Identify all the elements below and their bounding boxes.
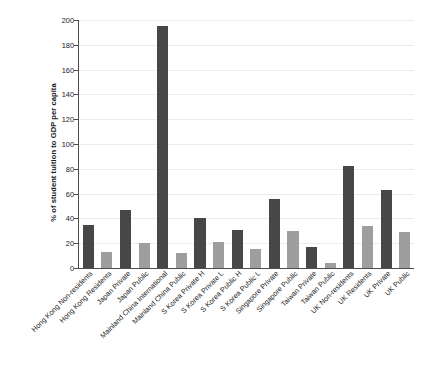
y-axis-tick-mark xyxy=(74,45,78,46)
y-axis-tick-mark xyxy=(74,218,78,219)
y-axis-tick-label: 100 xyxy=(34,140,74,149)
bar xyxy=(83,225,94,268)
y-axis-tick-label: 20 xyxy=(34,239,74,248)
bar xyxy=(269,199,280,268)
bar xyxy=(101,252,112,268)
bar xyxy=(194,218,205,268)
y-axis-tick-mark xyxy=(74,243,78,244)
bars-group xyxy=(79,20,414,268)
bar xyxy=(381,190,392,268)
bar xyxy=(176,253,187,268)
y-axis-tick-mark xyxy=(74,20,78,21)
bar xyxy=(306,247,317,268)
bar xyxy=(120,210,131,268)
bar xyxy=(362,226,373,268)
bar xyxy=(213,242,224,268)
plot-area xyxy=(78,20,414,268)
y-axis-tick-mark xyxy=(74,194,78,195)
y-axis-tick-label: 180 xyxy=(34,40,74,49)
bar xyxy=(399,232,410,268)
y-axis-tick-mark xyxy=(74,70,78,71)
bar xyxy=(325,263,336,268)
y-axis-tick-mark xyxy=(74,169,78,170)
bar xyxy=(232,230,243,268)
y-axis-tick-label: 60 xyxy=(34,189,74,198)
y-axis-tick-labels: 020406080100120140160180200 xyxy=(30,20,74,268)
y-axis-tick-mark xyxy=(74,144,78,145)
y-axis-tick-mark xyxy=(74,119,78,120)
bar xyxy=(139,243,150,268)
bar xyxy=(157,26,168,268)
bar xyxy=(343,166,354,268)
y-axis-tick-label: 0 xyxy=(34,264,74,273)
y-axis-tick-label: 140 xyxy=(34,90,74,99)
y-axis-tick-label: 160 xyxy=(34,65,74,74)
y-axis-tick-label: 40 xyxy=(34,214,74,223)
bar-chart-figure: % of student tuition to GDP per capita 0… xyxy=(0,0,427,375)
y-axis-tick-label: 120 xyxy=(34,115,74,124)
y-axis-tick-label: 200 xyxy=(34,16,74,25)
y-axis-tick-label: 80 xyxy=(34,164,74,173)
bar xyxy=(250,249,261,268)
y-axis-tick-mark xyxy=(74,94,78,95)
bar xyxy=(287,231,298,268)
x-axis-category-labels: Hong Kong Non-residentsHong Kong Residen… xyxy=(78,269,414,375)
